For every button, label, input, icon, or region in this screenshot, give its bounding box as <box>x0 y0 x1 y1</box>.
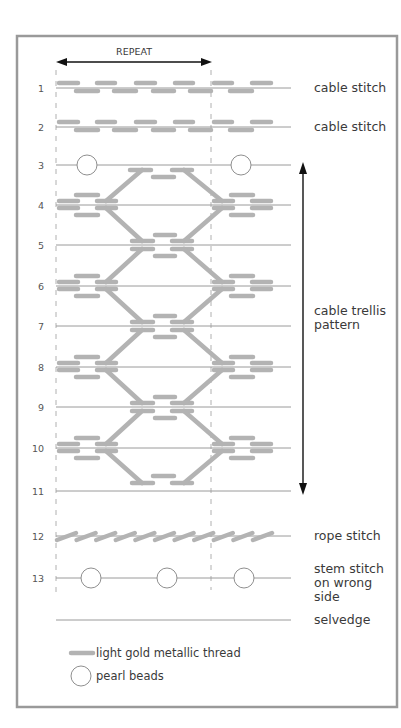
trellis-diagonal <box>106 289 142 322</box>
thread-stitches <box>57 83 272 540</box>
row-number: 7 <box>38 321 44 332</box>
row-number: 2 <box>38 122 44 133</box>
arrow-up-icon <box>299 162 307 174</box>
trellis-diagonal <box>106 208 142 241</box>
row-number: 5 <box>38 240 44 251</box>
repeat-arrow: REPEAT <box>56 46 212 66</box>
trellis-diagonal <box>184 411 222 444</box>
trellis-diagonal <box>184 170 222 201</box>
legend-thread-label: light gold metallic thread <box>96 646 241 660</box>
label-cable-trellis: pattern <box>314 317 360 332</box>
pearl-bead <box>231 155 251 175</box>
bead-swatch-icon <box>71 666 91 686</box>
label-cable-trellis: cable trellis <box>314 303 386 318</box>
arrow-left-icon <box>56 58 67 66</box>
row-number: 3 <box>38 160 44 171</box>
legend: light gold metallic thread pearl beads <box>71 646 241 686</box>
trellis-diagonal <box>106 170 142 201</box>
label-cable-stitch-2: cable stitch <box>314 119 386 134</box>
label-stem-stitch: on wrong <box>314 575 372 590</box>
row-number: 13 <box>32 573 44 584</box>
trellis-diagonal <box>184 289 222 322</box>
trellis-diagonal <box>106 411 142 444</box>
row-number: 8 <box>38 362 44 373</box>
pearl-bead <box>157 568 177 588</box>
trellis-diagonal <box>184 208 222 241</box>
row-number: 1 <box>38 83 44 94</box>
label-stem-stitch: stem stitch <box>314 561 384 576</box>
row-number: 4 <box>38 200 44 211</box>
label-cable-stitch-1: cable stitch <box>314 80 386 95</box>
row-number: 10 <box>32 443 44 454</box>
arrow-right-icon <box>201 58 212 66</box>
label-selvedge: selvedge <box>314 612 371 627</box>
pearl-bead <box>81 568 101 588</box>
legend-bead-label: pearl beads <box>96 669 164 683</box>
label-rope-stitch: rope stitch <box>314 528 381 543</box>
label-stem-stitch: side <box>314 589 340 604</box>
row-numbers: 12345678910111213 <box>32 83 44 584</box>
repeat-label: REPEAT <box>116 46 152 57</box>
embroidery-pattern-diagram: REPEAT 12345678910111213 cable stitchcab… <box>0 0 401 728</box>
trellis-diagonal <box>106 370 142 403</box>
row-number: 6 <box>38 281 44 292</box>
row-number: 12 <box>32 531 44 542</box>
pearl-bead <box>77 155 97 175</box>
row-labels: cable stitchcable stitchcable trellispat… <box>314 80 386 627</box>
trellis-diagonal <box>106 330 142 363</box>
trellis-diagonal <box>106 451 142 483</box>
trellis-diagonal <box>184 249 222 282</box>
trellis-span-arrow <box>299 162 307 495</box>
row-number: 9 <box>38 402 44 413</box>
arrow-down-icon <box>299 483 307 495</box>
trellis-diagonal <box>184 451 222 483</box>
trellis-diagonal <box>106 249 142 282</box>
pearl-bead <box>234 568 254 588</box>
trellis-diagonal <box>184 370 222 403</box>
trellis-diagonal <box>184 330 222 363</box>
row-number: 11 <box>32 486 44 497</box>
